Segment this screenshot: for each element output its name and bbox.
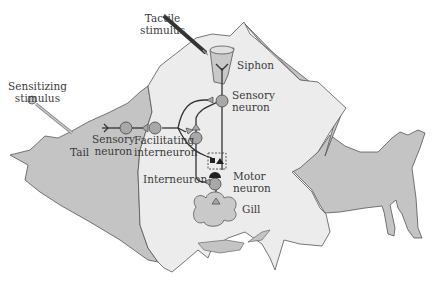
label-line: Sensitizing xyxy=(8,80,67,92)
sensitizing-stimulus-label: Sensitizing stimulus xyxy=(8,80,67,104)
label-line: Tactile xyxy=(140,12,185,24)
presynaptic-terminal xyxy=(210,158,215,163)
label-line: Motor xyxy=(233,170,271,182)
gill-shape xyxy=(194,192,237,226)
label-line: Sensory xyxy=(92,133,135,145)
label-line: stimulus xyxy=(140,24,185,36)
siphon-sensory-neuron-label: Sensory neuron xyxy=(232,89,275,113)
label-line: Sensory xyxy=(232,89,275,101)
interneuron-label: Interneuron xyxy=(143,173,207,185)
gill-label: Gill xyxy=(242,203,260,215)
label-line: Facilitating xyxy=(134,134,197,146)
label-line: neuron xyxy=(233,182,271,194)
siphon-label: Siphon xyxy=(237,59,274,71)
tail-label: Tail xyxy=(70,146,89,158)
motor-neuron xyxy=(209,178,221,190)
tail-sensory-neuron-label: Sensory neuron xyxy=(92,133,135,157)
siphon-opening xyxy=(210,46,234,54)
motor-neuron-label: Motor neuron xyxy=(233,170,271,194)
aplysia-diagram: Tactile stimulus Sensitizing stimulus Si… xyxy=(0,0,433,284)
label-line: stimulus xyxy=(8,92,67,104)
tail-shape xyxy=(10,86,158,262)
label-line: neuron xyxy=(92,145,135,157)
label-line: interneuron xyxy=(134,146,197,158)
facilitating-interneuron xyxy=(149,122,161,134)
facilitating-interneuron-label: Facilitating interneuron xyxy=(134,134,197,158)
electrode-core xyxy=(36,104,72,133)
siphon-sensory-neuron xyxy=(216,95,228,107)
label-line: neuron xyxy=(232,101,275,113)
diagram-artwork xyxy=(0,0,433,284)
tactile-stimulus-label: Tactile stimulus xyxy=(140,12,185,36)
